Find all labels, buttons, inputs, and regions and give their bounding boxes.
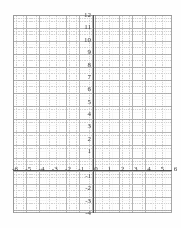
y-axis-line <box>93 15 94 213</box>
coordinate-grid-figure: 121110987654321-1-2-3-4-6-5-4-3-2-101234… <box>13 15 172 213</box>
y-tick-label: 4 <box>88 111 92 118</box>
y-tick-label: -2 <box>85 185 91 192</box>
x-tick-label: 2 <box>121 166 125 173</box>
y-tick-label: 10 <box>84 36 91 43</box>
x-tick-label: 6 <box>174 166 178 173</box>
x-tick-label: -6 <box>12 166 18 173</box>
x-tick-label: 1 <box>108 166 112 173</box>
y-tick-label: 7 <box>88 73 92 80</box>
worksheet-sheet: 121110987654321-1-2-3-4-6-5-4-3-2-101234… <box>0 0 181 228</box>
x-tick-label: 3 <box>134 166 138 173</box>
y-tick-label: 12 <box>84 12 91 19</box>
y-axis-line-ghost <box>95 15 96 213</box>
x-tick-label: 5 <box>161 166 165 173</box>
x-tick-label: 0 <box>94 166 98 173</box>
y-tick-label: 11 <box>84 24 91 31</box>
x-tick-label: -4 <box>39 166 45 173</box>
x-tick-label: -3 <box>52 166 58 173</box>
x-tick-label: -2 <box>65 166 71 173</box>
y-tick-label: 3 <box>88 123 92 130</box>
y-tick-label: 9 <box>88 49 92 56</box>
y-tick-label: 5 <box>88 98 92 105</box>
y-tick-label: 6 <box>88 86 92 93</box>
y-tick-label: -4 <box>85 210 91 217</box>
y-tick-label: 8 <box>88 61 92 68</box>
x-tick-label: 4 <box>147 166 151 173</box>
y-tick-label: 1 <box>88 148 92 155</box>
y-tick-label: 2 <box>88 135 92 142</box>
y-tick-label: -1 <box>85 172 91 179</box>
y-tick-label: -3 <box>85 197 91 204</box>
x-tick-label: -1 <box>78 166 84 173</box>
x-tick-label: -5 <box>25 166 31 173</box>
